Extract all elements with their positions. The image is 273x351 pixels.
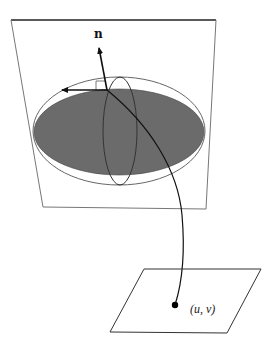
hemisphere-projection-diagram: n (u, v) xyxy=(0,0,273,351)
parameter-plane xyxy=(110,269,261,333)
shaded-disk xyxy=(34,89,204,175)
right-angle-marker xyxy=(96,81,105,90)
uv-label: (u, v) xyxy=(190,302,215,316)
upper-plane-right-edge xyxy=(206,20,216,209)
uv-point-dot xyxy=(172,302,178,308)
normal-arrow xyxy=(99,48,107,90)
normal-label: n xyxy=(94,27,103,41)
